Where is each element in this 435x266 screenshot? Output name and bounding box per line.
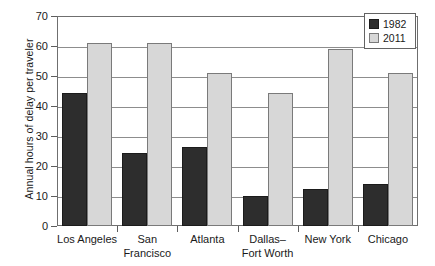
bar-chart-figure: Annual hours of delay per traveler 01020… (0, 0, 435, 266)
bar (207, 73, 232, 226)
bar (363, 184, 388, 226)
y-tick-label: 60 (36, 39, 48, 53)
legend-label: 2011 (383, 33, 406, 44)
x-tick-mark (298, 226, 299, 232)
bar-group (62, 16, 112, 226)
bar (147, 43, 172, 226)
bar-group (243, 16, 293, 226)
bar (243, 196, 268, 226)
bar (303, 189, 328, 226)
y-tick-label: 30 (36, 129, 48, 143)
bar (182, 147, 207, 227)
x-axis-category-label: Los Angeles (57, 233, 117, 247)
legend-swatch-dark (369, 19, 379, 29)
bar (87, 43, 112, 226)
y-tick-label: 0 (42, 219, 48, 233)
x-axis-category-label: Chicago (358, 233, 418, 247)
legend-swatch-light (369, 33, 379, 43)
bar (268, 93, 293, 227)
x-tick-mark (358, 226, 359, 232)
x-axis-category-label: Dallas–Fort Worth (238, 233, 298, 260)
bar-group (182, 16, 232, 226)
y-tick-label: 50 (36, 69, 48, 83)
y-tick-label: 20 (36, 159, 48, 173)
legend-item: 1982 (369, 17, 411, 31)
y-axis-title: Annual hours of delay per traveler (23, 14, 35, 224)
chart-legend: 19822011 (364, 13, 416, 49)
legend-label: 1982 (383, 19, 406, 30)
x-tick-mark (177, 226, 178, 232)
legend-item: 2011 (369, 31, 411, 45)
bar (328, 49, 353, 226)
x-axis-category-label: Atlanta (177, 233, 237, 247)
bar (388, 73, 413, 226)
x-axis-category-label: SanFrancisco (117, 233, 177, 260)
y-tick-label: 40 (36, 99, 48, 113)
y-tick-label: 10 (36, 189, 48, 203)
x-tick-mark (117, 226, 118, 232)
bar-group (122, 16, 172, 226)
bar (62, 93, 87, 227)
x-axis-category-label: New York (298, 233, 358, 247)
bar-group (303, 16, 353, 226)
x-tick-mark (238, 226, 239, 232)
y-tick-label: 70 (36, 9, 48, 23)
bar (122, 153, 147, 227)
